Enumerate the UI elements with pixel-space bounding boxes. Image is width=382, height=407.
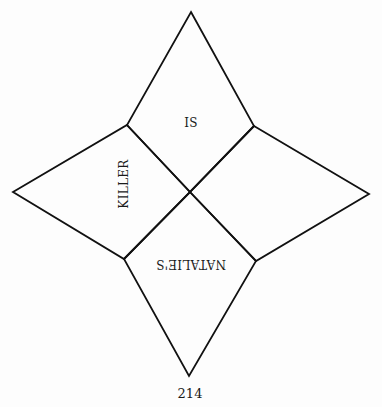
page-number: 214 bbox=[178, 386, 203, 401]
quadrant-top-outline bbox=[127, 12, 254, 192]
quadrant-bottom-outline bbox=[124, 192, 256, 376]
page: IS KILLER NATALIE'S 214 bbox=[0, 0, 382, 407]
quadrant-bottom-label: NATALIE'S bbox=[156, 258, 226, 270]
quadrant-right-outline bbox=[190, 126, 369, 261]
star-diagram bbox=[0, 0, 382, 407]
quadrant-left-label: KILLER bbox=[118, 159, 130, 208]
quadrant-left-outline bbox=[13, 125, 190, 259]
quadrant-top-label: IS bbox=[184, 117, 198, 129]
